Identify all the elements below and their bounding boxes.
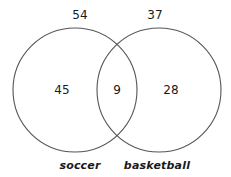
- intersection-count: 9: [113, 83, 121, 97]
- soccer-only-count: 45: [54, 83, 69, 97]
- basketball-only-count: 28: [163, 83, 178, 97]
- basketball-total: 37: [147, 8, 162, 22]
- basketball-label: basketball: [124, 159, 190, 172]
- soccer-label: soccer: [59, 159, 100, 172]
- soccer-total: 54: [72, 8, 87, 22]
